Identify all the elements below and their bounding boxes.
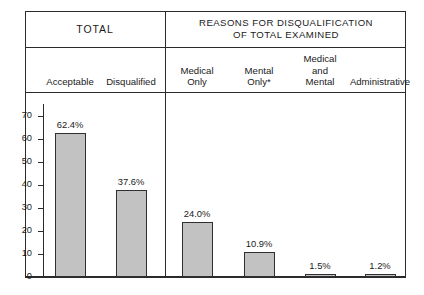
y-tick-mark-60 [38, 139, 44, 140]
y-tick-label-60: 60 [8, 134, 32, 143]
y-tick-mark-50 [38, 162, 44, 163]
bar-acceptable [55, 133, 86, 277]
bar-disqualified [116, 190, 147, 277]
y-tick-mark-30 [38, 208, 44, 209]
y-tick-mark-70 [38, 116, 44, 117]
bar-value-label-acceptable: 62.4% [30, 120, 110, 130]
y-tick-label-30: 30 [8, 203, 32, 212]
y-tick-label-50: 50 [8, 157, 32, 166]
y-tick-mark-20 [38, 231, 44, 232]
bar-value-label-administrative: 1.2% [340, 261, 420, 271]
x-axis-baseline [25, 277, 406, 278]
chart-root: TOTAL REASONS FOR DISQUALIFICATION OF TO… [0, 0, 424, 295]
y-tick-mark-40 [38, 185, 44, 186]
y-tick-label-40: 40 [8, 180, 32, 189]
y-tick-label-10: 10 [8, 249, 32, 258]
y-tick-label-20: 20 [8, 226, 32, 235]
bar-mental-only [244, 252, 275, 277]
bar-value-label-medical-only: 24.0% [157, 209, 237, 219]
bar-value-label-disqualified: 37.6% [91, 177, 171, 187]
y-tick-mark-10 [38, 254, 44, 255]
y-tick-label-70: 70 [8, 111, 32, 120]
bar-medical-only [182, 222, 213, 277]
y-axis-line [43, 104, 44, 278]
bar-value-label-mental-only: 10.9% [219, 239, 299, 249]
plot-area: 010203040506070 62.4%37.6%24.0%10.9%1.5%… [0, 0, 424, 277]
